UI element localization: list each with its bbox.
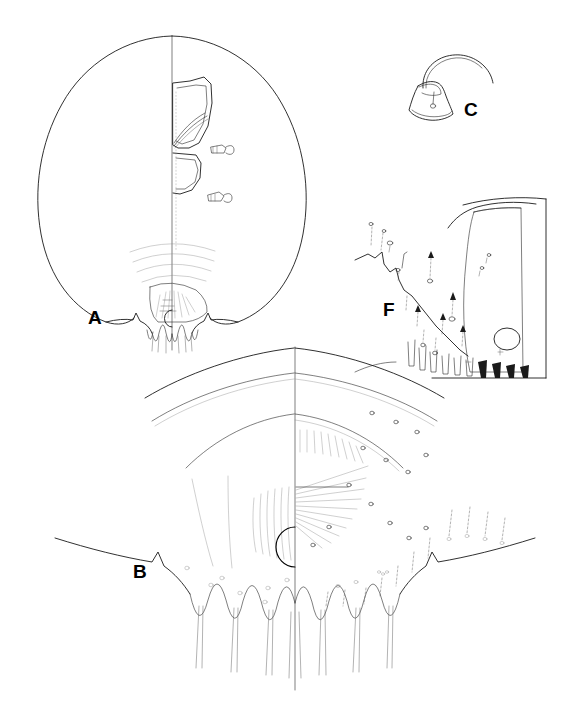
marginal-band-third-right-b: [295, 420, 399, 471]
pygidial-striations-a: [156, 291, 195, 318]
f-upper-curve-inner: [448, 202, 536, 228]
sublobe-setae-f: [466, 349, 503, 362]
internal-pore-c: [430, 92, 435, 108]
illustration-plate: .ln { fill:none; stroke:#1a1a1a; stroke-…: [0, 0, 585, 715]
anal-opening-b: [276, 527, 295, 567]
body-outline-left: [38, 36, 172, 324]
marginal-band-second-right-b: [295, 379, 434, 426]
marginal-band-third-right: [295, 414, 403, 468]
f-lower-stray-contour: [355, 362, 396, 372]
long-seta-left-2: [228, 476, 232, 568]
posterior-arc-4: [142, 275, 206, 282]
marginal-band-second-right: [295, 373, 437, 421]
panel-label-c: C: [464, 100, 478, 119]
antennal-tubercle-inner-rim: [412, 110, 452, 117]
posterior-arc-2: [133, 254, 214, 262]
panel-label-a: A: [88, 308, 102, 327]
panel-b-group: [55, 347, 535, 690]
marginal-setae-right-b: [326, 507, 505, 606]
mouthpart-stylet-1: [174, 113, 205, 143]
panel-label-b: B: [133, 562, 147, 581]
apical-curved-seta: [423, 55, 493, 88]
striations-left-b: [253, 487, 291, 560]
panel-label-f: F: [383, 300, 395, 319]
duct-cluster-right-b: [377, 571, 388, 576]
marginal-band-outer-left: [145, 348, 294, 398]
anal-fan-striations-b: [296, 466, 368, 548]
marginal-band-second-left: [152, 373, 294, 421]
margin-contour-f: [355, 252, 468, 356]
striated-area-pores-f: [479, 254, 491, 277]
posterior-arc-3: [137, 264, 211, 272]
body-outline-right: [172, 36, 306, 324]
marginal-band-outer-right: [295, 348, 444, 398]
pygidial-lobes-a: [147, 325, 198, 353]
lateral-margin-left-b: [55, 538, 190, 594]
spiracle-lower: [208, 192, 232, 202]
labium-lobe-inner: [176, 158, 198, 189]
lateral-margin-right-b: [400, 538, 535, 594]
spiracle-upper: [211, 145, 234, 154]
marginal-band-third-left: [186, 414, 294, 468]
posterior-arc-1: [130, 244, 215, 252]
panel-a-group: [38, 36, 306, 353]
large-circular-pore-f: [494, 328, 520, 350]
marginal-band-second-left-b: [155, 379, 294, 426]
panel-c-group: [409, 55, 493, 120]
antennal-tubercle: [409, 82, 453, 121]
disc-pores-left-b: [185, 566, 289, 604]
long-seta-left-1: [192, 479, 213, 566]
posterior-margin-right: [192, 313, 238, 333]
antennal-tubercle-apex-rim: [419, 84, 441, 95]
panel-f-group: [355, 198, 546, 378]
radiating-striations-b: [300, 430, 363, 463]
posterior-margin-left: [106, 313, 152, 333]
mouthpart-stylet-2: [174, 116, 207, 146]
setae-row-f: [369, 222, 466, 354]
pygidial-shield-a: [150, 283, 207, 322]
plate-artwork: .ln { fill:none; stroke:#1a1a1a; stroke-…: [0, 0, 585, 715]
